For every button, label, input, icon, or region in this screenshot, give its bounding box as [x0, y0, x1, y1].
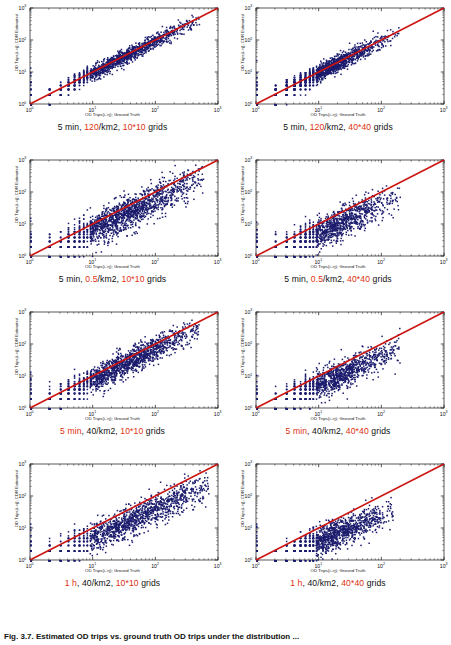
panel-caption-p1: 5 min, 120/km2, 10*10 grids — [0, 122, 225, 132]
x-axis-label-p6: OD Trips(i->j); Ground Truth — [226, 416, 451, 421]
y-axis-label-p4: OD Trips(i->j); CDR Estimated — [239, 149, 244, 241]
caption-segment: 120 — [310, 122, 325, 132]
caption-segment: , 40/km2, — [77, 578, 116, 588]
plot-area-p3: 100100101101102102103103 OD Trips(i->j);… — [0, 152, 225, 280]
caption-segment: , 40/km2, — [302, 578, 341, 588]
x-axis-label-p2: OD Trips(i->j); Ground Truth — [226, 112, 451, 117]
scatter-svg-p6: 100100101101102102103103 — [226, 304, 451, 432]
panel-caption-p2: 5 min, 120/km2, 40*40 grids — [226, 122, 451, 132]
caption-segment: grids — [369, 426, 391, 436]
caption-segment: 40*40 — [348, 122, 371, 132]
scatter-panel-p2: 100100101101102102103103 OD Trips(i->j);… — [226, 0, 451, 152]
caption-segment: 5 min, — [283, 122, 310, 132]
caption-segment: /km2, — [323, 274, 347, 284]
x-axis-label-p7: OD Trips(i->j); Ground Truth — [0, 568, 225, 573]
caption-segment: 120 — [84, 122, 99, 132]
scatter-panel-p8: 100100101101102102103103 OD Trips(i->j);… — [226, 456, 451, 608]
svg-text:103: 103 — [19, 4, 27, 10]
svg-text:102: 102 — [244, 341, 252, 347]
scatter-svg-p4: 100100101101102102103103 — [226, 152, 451, 280]
caption-segment: 5 min — [286, 426, 308, 436]
plot-area-p5: 100100101101102102103103 OD Trips(i->j);… — [0, 304, 225, 432]
y-axis-label-p6: OD Trips(i->j); CDR Estimated — [239, 301, 244, 393]
caption-segment: 10*10 — [123, 122, 146, 132]
caption-segment: 40*40 — [341, 578, 364, 588]
caption-segment: grids — [371, 122, 393, 132]
plot-area-p7: 100100101101102102103103 OD Trips(i->j);… — [0, 456, 225, 584]
panel-grid: 100100101101102102103103 OD Trips(i->j);… — [0, 0, 451, 608]
caption-segment: grids — [139, 578, 161, 588]
svg-text:102: 102 — [244, 37, 252, 43]
svg-text:103: 103 — [244, 309, 252, 315]
figure-od-trips-comparison: 100100101101102102103103 OD Trips(i->j);… — [0, 0, 451, 645]
panel-caption-p8: 1 h, 40/km2, 40*40 grids — [226, 578, 451, 588]
caption-segment: 5 min, — [58, 122, 85, 132]
y-axis-label-p1: OD Trips(i->j); CDR Estimated — [14, 0, 19, 89]
x-axis-label-p8: OD Trips(i->j); Ground Truth — [226, 568, 451, 573]
svg-text:102: 102 — [19, 341, 27, 347]
caption-segment: 0.5 — [311, 274, 323, 284]
caption-segment: 1 h — [290, 578, 302, 588]
caption-segment: 10*10 — [116, 578, 139, 588]
scatter-panel-p6: 100100101101102102103103 OD Trips(i->j);… — [226, 304, 451, 456]
scatter-panel-p7: 100100101101102102103103 OD Trips(i->j);… — [0, 456, 225, 608]
x-axis-label-p3: OD Trips(i->j); Ground Truth — [0, 264, 225, 269]
panel-caption-p7: 1 h, 40/km2, 10*10 grids — [0, 578, 225, 588]
caption-segment: 40*40 — [346, 426, 369, 436]
svg-text:103: 103 — [244, 157, 252, 163]
caption-segment: grids — [364, 578, 386, 588]
scatter-svg-p2: 100100101101102102103103 — [226, 0, 451, 128]
y-axis-label-p8: OD Trips(i->j); CDR Estimated — [239, 453, 244, 545]
svg-text:102: 102 — [19, 37, 27, 43]
plot-area-p1: 100100101101102102103103 OD Trips(i->j);… — [0, 0, 225, 128]
scatter-svg-p3: 100100101101102102103103 — [0, 152, 225, 280]
scatter-panel-p5: 100100101101102102103103 OD Trips(i->j);… — [0, 304, 225, 456]
panel-caption-p5: 5 min, 40/km2, 10*10 grids — [0, 426, 225, 436]
scatter-panel-p3: 100100101101102102103103 OD Trips(i->j);… — [0, 152, 225, 304]
plot-area-p8: 100100101101102102103103 OD Trips(i->j);… — [226, 456, 451, 584]
svg-text:101: 101 — [19, 221, 27, 227]
y-axis-label-p7: OD Trips(i->j); CDR Estimated — [14, 453, 19, 545]
svg-text:103: 103 — [19, 157, 27, 163]
caption-segment: , 40/km2, — [307, 426, 346, 436]
svg-text:103: 103 — [19, 309, 27, 315]
svg-text:102: 102 — [19, 189, 27, 195]
svg-text:102: 102 — [244, 189, 252, 195]
scatter-panel-p4: 100100101101102102103103 OD Trips(i->j);… — [226, 152, 451, 304]
panel-caption-p6: 5 min, 40/km2, 40*40 grids — [226, 426, 451, 436]
svg-text:101: 101 — [19, 525, 27, 531]
x-axis-label-p5: OD Trips(i->j); Ground Truth — [0, 416, 225, 421]
y-axis-label-p2: OD Trips(i->j); CDR Estimated — [239, 0, 244, 89]
svg-text:101: 101 — [244, 373, 252, 379]
caption-segment: 5 min, — [59, 274, 86, 284]
caption-segment: 10*10 — [122, 274, 145, 284]
caption-segment: grids — [146, 122, 168, 132]
caption-segment: grids — [145, 274, 167, 284]
caption-segment: 5 min — [60, 426, 82, 436]
x-axis-label-p1: OD Trips(i->j); Ground Truth — [0, 112, 225, 117]
svg-text:101: 101 — [244, 69, 252, 75]
scatter-svg-p8: 100100101101102102103103 — [226, 456, 451, 584]
caption-segment: /km2, — [99, 122, 123, 132]
svg-text:103: 103 — [244, 4, 252, 10]
x-axis-label-p4: OD Trips(i->j); Ground Truth — [226, 264, 451, 269]
panel-caption-p3: 5 min, 0.5/km2, 10*10 grids — [0, 274, 225, 284]
panel-caption-p4: 5 min, 0.5/km2, 40*40 grids — [226, 274, 451, 284]
svg-text:101: 101 — [244, 221, 252, 227]
svg-text:102: 102 — [19, 493, 27, 499]
plot-area-p2: 100100101101102102103103 OD Trips(i->j);… — [226, 0, 451, 128]
svg-text:101: 101 — [19, 373, 27, 379]
scatter-svg-p1: 100100101101102102103103 — [0, 0, 225, 128]
caption-segment: grids — [143, 426, 165, 436]
svg-text:103: 103 — [19, 461, 27, 467]
scatter-svg-p7: 100100101101102102103103 — [0, 456, 225, 584]
scatter-panel-p1: 100100101101102102103103 OD Trips(i->j);… — [0, 0, 225, 152]
plot-area-p4: 100100101101102102103103 OD Trips(i->j);… — [226, 152, 451, 280]
svg-text:101: 101 — [19, 69, 27, 75]
scatter-svg-p5: 100100101101102102103103 — [0, 304, 225, 432]
y-axis-label-p5: OD Trips(i->j); CDR Estimated — [14, 301, 19, 393]
figure-caption: Fig. 3.7. Estimated OD trips vs. ground … — [4, 632, 451, 642]
y-axis-label-p3: OD Trips(i->j); CDR Estimated — [14, 149, 19, 241]
caption-segment: , 40/km2, — [82, 426, 121, 436]
caption-segment: 40*40 — [347, 274, 370, 284]
